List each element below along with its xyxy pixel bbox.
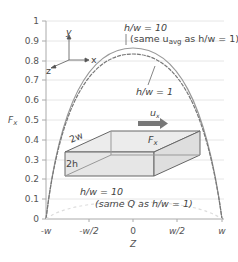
svg-text:0.7: 0.7 bbox=[25, 75, 39, 85]
x-tick-labels: -w -w/2 0 w/2 w bbox=[41, 226, 227, 236]
axis-z-glyph-label: z bbox=[46, 65, 51, 76]
x-axis-label: Z bbox=[129, 239, 137, 249]
svg-text:1: 1 bbox=[33, 16, 39, 26]
box-width-label: 2w bbox=[68, 129, 85, 144]
svg-text:w/2: w/2 bbox=[169, 226, 185, 236]
chart-canvas: 1 0.9 0.8 0.7 0.6 0.5 0.4 0.3 0.2 0.1 0 … bbox=[0, 0, 238, 262]
box-height-label: 2h bbox=[66, 158, 78, 169]
svg-text:0.2: 0.2 bbox=[25, 174, 39, 184]
annotation-top-note: (same uavg as h/w = 1) bbox=[130, 33, 238, 46]
svg-text:w: w bbox=[218, 226, 226, 236]
annotation-bottom-title: h/w = 10 bbox=[80, 186, 123, 197]
annotation-mid-arrow bbox=[148, 66, 155, 85]
svg-text:0.8: 0.8 bbox=[25, 56, 40, 66]
svg-text:0.1: 0.1 bbox=[25, 194, 39, 204]
svg-text:-w: -w bbox=[41, 226, 52, 236]
channel-box-diagram bbox=[65, 131, 200, 176]
svg-text:0.5: 0.5 bbox=[25, 115, 39, 125]
svg-text:0.9: 0.9 bbox=[25, 36, 40, 46]
svg-text:0.3: 0.3 bbox=[25, 155, 39, 165]
annotation-mid: h/w = 1 bbox=[136, 86, 173, 97]
svg-text:0: 0 bbox=[130, 226, 136, 236]
coordinate-axes-icon bbox=[51, 35, 89, 68]
axis-x-glyph-label: x bbox=[91, 54, 97, 65]
annotation-bottom-note: (same Q as h/w = 1) bbox=[95, 198, 193, 209]
y-axis-label: Fx bbox=[8, 115, 18, 127]
svg-text:-w/2: -w/2 bbox=[79, 226, 99, 236]
axis-y-glyph-label: y bbox=[65, 26, 72, 37]
y-tick-labels: 1 0.9 0.8 0.7 0.6 0.5 0.4 0.3 0.2 0.1 0 bbox=[25, 16, 40, 224]
svg-text:0: 0 bbox=[33, 214, 39, 224]
svg-text:0.6: 0.6 bbox=[25, 95, 40, 105]
annotation-top-title: h/w = 10 bbox=[124, 22, 167, 33]
svg-text:0.4: 0.4 bbox=[25, 135, 40, 145]
flow-label: ux bbox=[150, 107, 160, 119]
chart: 1 0.9 0.8 0.7 0.6 0.5 0.4 0.3 0.2 0.1 0 … bbox=[0, 0, 238, 262]
